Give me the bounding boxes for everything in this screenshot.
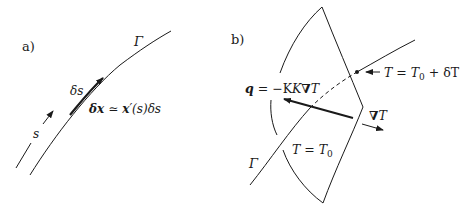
- panel-b-label: b): [231, 32, 244, 47]
- flux-label: q = −KK∇T: [245, 81, 321, 96]
- gamma-label-b: Γ: [248, 156, 259, 171]
- isotherm-low-label: T = T0: [292, 142, 333, 159]
- intersection-point: [355, 70, 359, 74]
- diagram-canvas: a) Γ s δs δx≃x′(s)δs b) T = T0 + δT q = …: [0, 0, 470, 213]
- s-line-lower: [16, 143, 31, 168]
- s-label: s: [33, 127, 39, 141]
- delta-s-label: δs: [70, 84, 83, 98]
- eq-rel: ≃: [108, 102, 118, 116]
- panel-b: b) T = T0 + δT q = −KK∇T ∇T T = T0 Γ: [231, 7, 460, 203]
- gamma-label-a: Γ: [133, 34, 144, 49]
- equation-a: δx≃x′(s)δs: [88, 102, 161, 116]
- panel-a-label: a): [22, 39, 35, 54]
- gradient-arrow: [362, 124, 383, 130]
- isotherm-surface-left-upper: [271, 100, 277, 135]
- s-arrow: [43, 111, 53, 124]
- eq-rhs-rest: ′(s)δs: [129, 102, 161, 116]
- gradient-label: ∇T: [369, 108, 388, 123]
- flux-arrow: [284, 99, 353, 118]
- isotherm-surface-left-lower: [283, 150, 323, 203]
- isotherm-high-label: T = T0 + δT: [384, 65, 460, 82]
- eq-lhs: δx: [88, 102, 105, 116]
- panel-a: a) Γ s δs δx≃x′(s)δs: [16, 31, 171, 175]
